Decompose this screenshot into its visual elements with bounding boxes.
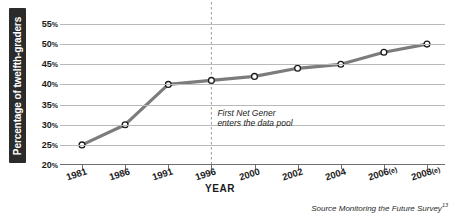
x-axis-tick-label: 2006(e) (367, 164, 398, 182)
x-axis-tick-label: 2004 (324, 166, 347, 182)
x-axis-tick-label: 2000 (238, 166, 261, 182)
x-axis-tick-label: 2008(e) (410, 164, 441, 182)
chart-figure: Percentage of twelfth-graders 55%50%45%4… (0, 0, 455, 220)
source-note: Source Monitoring the Future Survey13 (311, 202, 448, 213)
x-axis-title: YEAR (0, 183, 440, 194)
x-axis-tick-label: 1981 (65, 166, 88, 182)
x-axis-tick-label: 1986 (108, 166, 131, 182)
x-axis-tick-label: 1991 (151, 166, 174, 182)
source-note-superscript: 13 (442, 202, 448, 208)
x-axis-tick-label: 1996 (194, 166, 217, 182)
source-note-text: Source Monitoring the Future Survey (311, 204, 442, 213)
x-axis-tick-label: 2002 (281, 166, 304, 182)
